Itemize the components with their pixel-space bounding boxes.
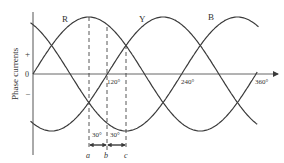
diagram-canvas: R Y B + 0 – 120° 240° 360° 30° 30° a b c… bbox=[0, 0, 284, 163]
y-axis-label: Phase currents bbox=[10, 47, 20, 100]
y-tick-minus: – bbox=[25, 89, 31, 98]
interval-label-1: 30° bbox=[92, 131, 102, 139]
interval-label-2: 30° bbox=[110, 131, 120, 139]
x-tick-120: 120° bbox=[107, 78, 121, 86]
y-tick-zero: 0 bbox=[25, 70, 29, 79]
curve-label-b: B bbox=[208, 12, 214, 22]
x-tick-360: 360° bbox=[255, 78, 269, 86]
phase-currents-diagram: R Y B + 0 – 120° 240° 360° 30° 30° a b c… bbox=[0, 0, 284, 163]
curve-label-y: Y bbox=[139, 14, 146, 24]
point-label-a: a bbox=[86, 151, 90, 160]
point-label-b: b bbox=[104, 151, 108, 160]
x-tick-240: 240° bbox=[181, 78, 195, 86]
point-label-c: c bbox=[124, 151, 128, 160]
y-tick-plus: + bbox=[25, 49, 30, 59]
curve-label-r: R bbox=[62, 14, 68, 24]
